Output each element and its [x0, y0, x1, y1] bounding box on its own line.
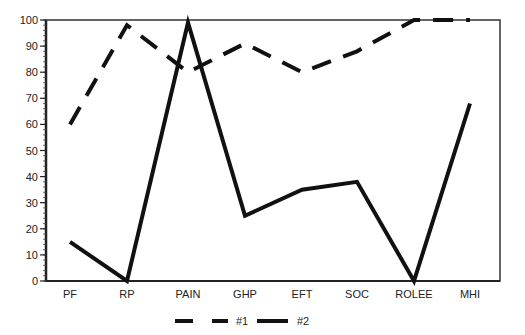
y-tick-label: 40 — [26, 171, 38, 183]
y-tick-label: 10 — [26, 249, 38, 261]
legend-label-2: #2 — [297, 315, 309, 327]
x-tick-label: MHI — [460, 288, 480, 300]
y-tick-label: 60 — [26, 118, 38, 130]
y-tick-label: 70 — [26, 92, 38, 104]
y-tick-label: 20 — [26, 223, 38, 235]
y-tick-label: 50 — [26, 145, 38, 157]
legend-label-1: #1 — [236, 315, 248, 327]
y-tick-label: 100 — [20, 14, 38, 26]
x-tick-label: GHP — [233, 288, 257, 300]
x-tick-label: EFT — [292, 288, 313, 300]
x-tick-label: ROLEE — [395, 288, 432, 300]
x-tick-label: PF — [63, 288, 77, 300]
plot-frame — [46, 20, 500, 281]
x-tick-label: SOC — [345, 288, 369, 300]
legend: #1#2 — [175, 315, 309, 327]
line-chart: 0102030405060708090100PFRPPAINGHPEFTSOCR… — [0, 0, 525, 335]
x-tick-label: PAIN — [176, 288, 201, 300]
series-lines — [70, 20, 470, 281]
series-line-2 — [70, 23, 470, 281]
y-tick-label: 30 — [26, 197, 38, 209]
y-tick-label: 0 — [32, 275, 38, 287]
x-tick-label: RP — [119, 288, 134, 300]
y-tick-label: 90 — [26, 40, 38, 52]
y-tick-label: 80 — [26, 66, 38, 78]
series-line-1 — [70, 20, 470, 124]
